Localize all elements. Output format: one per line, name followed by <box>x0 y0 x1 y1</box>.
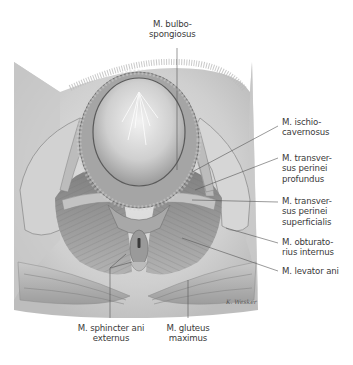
fetal-head <box>93 78 185 186</box>
label-transversus-perinei-profundus: M. transver- sus perinei profundus <box>282 153 332 184</box>
label-gluteus-maximus: M. gluteus maximus <box>160 323 216 344</box>
artist-signature: K. Wesker <box>225 298 258 305</box>
label-transversus-perinei-superficialis: M. transver- sus perinei superficialis <box>282 196 332 227</box>
label-obturatorius-internus: M. obturato- rius internus <box>282 237 334 258</box>
label-levator-ani: M. levator ani <box>282 266 339 276</box>
label-bulbospongiosus: M. bulbo- spongiosus <box>149 19 196 40</box>
label-ischiocavernosus: M. ischio- cavernosus <box>282 117 329 138</box>
label-sphincter-ani-externus: M. sphincter ani externus <box>74 323 148 344</box>
anal-sphincter <box>130 230 148 271</box>
